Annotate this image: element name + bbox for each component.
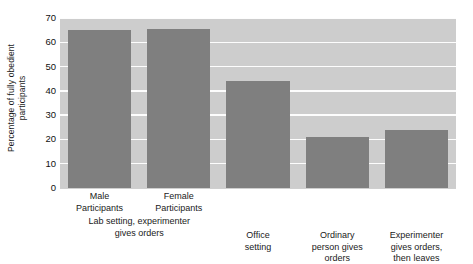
group-label-line: gives orders — [60, 228, 218, 240]
bar — [68, 30, 131, 188]
y-tick-label: 20 — [45, 134, 56, 144]
y-tick-label: 10 — [45, 159, 56, 169]
group-label-line: Office — [218, 230, 297, 242]
bar-label: FemaleParticipants — [139, 191, 218, 214]
bar — [385, 130, 448, 188]
group-label-line: Experimenter — [377, 230, 456, 242]
y-axis-ticks: 010203040506070 — [34, 0, 60, 196]
y-tick-label: 40 — [45, 86, 56, 96]
group-label-line: gives orders, — [377, 242, 456, 254]
bar-label-line: Male — [60, 191, 139, 203]
y-tick-label: 0 — [51, 183, 56, 193]
y-tick-label: 50 — [45, 62, 56, 72]
bar-label-line: Participants — [60, 203, 139, 215]
y-axis-label-text: Percentage of fully obedient participant… — [6, 44, 28, 152]
bar-label-line: Participants — [139, 203, 218, 215]
x-axis-line — [60, 188, 456, 189]
y-axis-label: Percentage of fully obedient participant… — [0, 0, 34, 196]
group-label: Experimentergives orders,then leaves — [377, 230, 456, 264]
group-label-line: Lab setting, experimenter — [60, 216, 218, 228]
group-label: Ordinaryperson givesorders — [298, 230, 377, 264]
group-label-line: person gives — [298, 242, 377, 254]
bar — [226, 81, 289, 188]
group-label-line: Ordinary — [298, 230, 377, 242]
bar — [147, 29, 210, 188]
bar — [306, 137, 369, 188]
group-label-line: orders — [298, 253, 377, 264]
y-axis-label-line2: participants — [17, 44, 28, 152]
y-tick-label: 60 — [45, 37, 56, 47]
y-tick-label: 30 — [45, 110, 56, 120]
group-label: Lab setting, experimentergives orders — [60, 216, 218, 239]
bar-series — [60, 18, 456, 188]
y-axis-label-line1: Percentage of fully obedient — [6, 44, 16, 152]
y-tick-label: 70 — [45, 13, 56, 23]
x-axis-group-labels: Lab setting, experimentergives ordersOff… — [60, 216, 456, 262]
x-axis-bar-labels: MaleParticipantsFemaleParticipants — [60, 191, 456, 217]
bar-label-line: Female — [139, 191, 218, 203]
bar-label: MaleParticipants — [60, 191, 139, 214]
bar-chart-figure: Percentage of fully obedient participant… — [0, 0, 473, 264]
group-label-line: setting — [218, 242, 297, 254]
group-label: Officesetting — [218, 230, 297, 253]
plot-area — [60, 18, 456, 188]
group-label-line: then leaves — [377, 253, 456, 264]
